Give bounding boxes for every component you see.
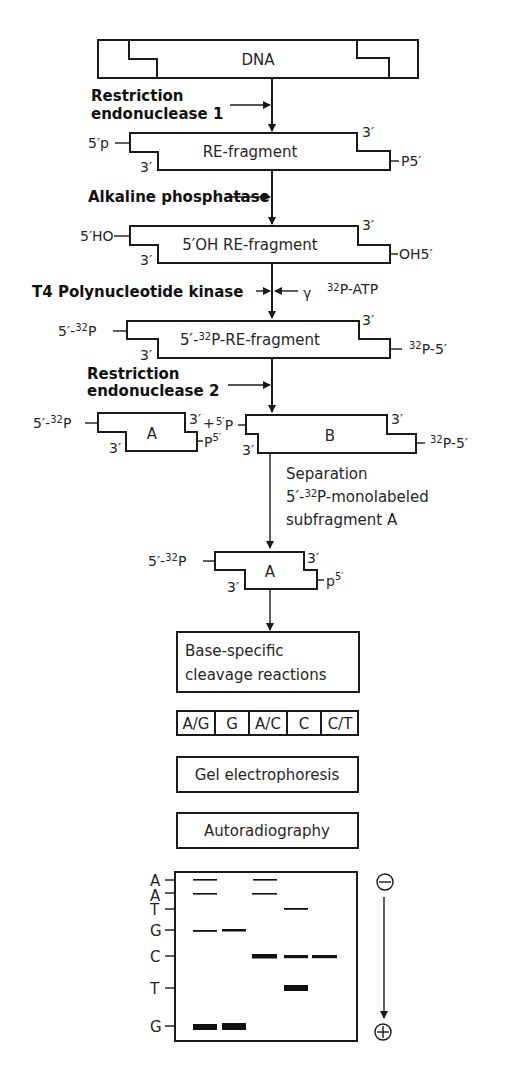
subfragment-a-right-3prime: 3′ xyxy=(189,411,201,427)
band xyxy=(193,879,217,881)
gel-electrophoresis-label: Gel electrophoresis xyxy=(195,766,340,784)
isolated-a-right-end: p5′ xyxy=(326,571,344,589)
subfragment-a: A 5′-32P 3′ 3′ + P5′ xyxy=(33,411,222,456)
lane-label-ac: A/C xyxy=(255,715,281,733)
step-restriction-2-line2: endonuclease 2 xyxy=(87,382,219,400)
re-fragment-label: RE-fragment xyxy=(203,143,298,161)
lane-label-g: G xyxy=(226,715,238,733)
seq-label: G xyxy=(150,922,162,940)
re-fragment-left-3prime: 3′ xyxy=(140,159,152,175)
step-alkaline-phosphatase: Alkaline phosphatase xyxy=(88,188,270,206)
dna-label: DNA xyxy=(241,51,275,69)
band xyxy=(252,954,277,959)
isolated-a-left-end: 5′-32P xyxy=(148,552,186,569)
step-restriction-2-line1: Restriction xyxy=(87,365,180,383)
band xyxy=(253,879,277,881)
sequencing-gel: A A T G C T G xyxy=(149,872,357,1041)
subfragment-a-left-end: 5′-32P xyxy=(33,414,71,431)
oh-fragment-right-3prime: 3′ xyxy=(362,217,374,233)
labeled-fragment-label: 5′-32P-RE-fragment xyxy=(180,331,320,349)
reaction-lanes: A/G G A/C C C/T xyxy=(177,711,358,735)
lane-label-ag: A/G xyxy=(183,715,210,733)
subfragment-b-left-end: 5′P xyxy=(216,416,233,433)
dna-box: DNA xyxy=(98,40,418,78)
re-fragment-right-end: P5′ xyxy=(401,153,422,169)
subfragment-b: B 5′P 3′ 3′ 32P-5′ xyxy=(216,411,468,458)
subfragment-b-label: B xyxy=(325,427,335,445)
maxam-gilbert-sequencing-diagram: DNA Restriction endonuclease 1 RE-fragme… xyxy=(0,0,507,1068)
band xyxy=(284,985,308,991)
band xyxy=(193,930,217,932)
autoradiography-label: Autoradiography xyxy=(204,822,330,840)
separation-line2: 5′-32P-monolabeled xyxy=(286,488,429,506)
labeled-fragment-right-end: 32P-5′ xyxy=(409,340,447,357)
band xyxy=(222,929,246,932)
band xyxy=(193,1024,217,1030)
gel-electrophoresis-box: Gel electrophoresis xyxy=(177,757,358,792)
oh-fragment-left-3prime: 3′ xyxy=(140,252,152,268)
oh-fragment-left-end: 5′HO xyxy=(80,228,114,244)
subfragment-a-right-end: P5′ xyxy=(204,432,222,450)
isolated-a-left-3prime: 3′ xyxy=(227,579,239,595)
reagent-gamma: γ xyxy=(303,285,311,301)
seq-label: T xyxy=(149,980,160,998)
separation-line3: subfragment A xyxy=(286,511,398,529)
labeled-fragment-left-end: 5′-32P xyxy=(58,322,96,339)
electrophoresis-direction xyxy=(375,874,393,1040)
isolated-a-right-3prime: 3′ xyxy=(307,550,319,566)
subfragment-a-label: A xyxy=(147,425,158,443)
subfragment-a-left-3prime: 3′ xyxy=(109,440,121,456)
cleavage-line2: cleavage reactions xyxy=(185,666,327,684)
re-fragment-right-3prime: 3′ xyxy=(362,124,374,140)
plus-sign: + xyxy=(203,415,215,431)
seq-label: C xyxy=(150,948,160,966)
band xyxy=(312,955,337,958)
isolated-subfragment-a: A 5′-32P 3′ 3′ p5′ xyxy=(148,550,344,595)
oh-re-fragment: 5′OH RE-fragment 5′HO 3′ 3′ OH5′ xyxy=(80,217,433,268)
seq-label: T xyxy=(149,901,160,919)
oh-fragment-right-end: OH5′ xyxy=(399,246,433,262)
oh-fragment-label: 5′OH RE-fragment xyxy=(182,236,318,254)
step-restriction-1-line2: endonuclease 1 xyxy=(91,105,223,123)
cleavage-reactions-box: Base-specific cleavage reactions xyxy=(177,632,359,692)
isolated-a-label: A xyxy=(265,563,276,581)
lane-label-ct: C/T xyxy=(328,715,354,733)
labeled-fragment-left-3prime: 3′ xyxy=(140,347,152,363)
subfragment-b-right-end: 32P-5′ xyxy=(430,434,468,451)
seq-label: G xyxy=(150,1018,162,1036)
subfragment-b-right-3prime: 3′ xyxy=(391,411,403,427)
reagent-atp: 32P-ATP xyxy=(327,281,378,297)
labeled-re-fragment: 5′-32P-RE-fragment 5′-32P 3′ 3′ 32P-5′ xyxy=(58,312,447,363)
cleavage-line1: Base-specific xyxy=(185,642,284,660)
labeled-fragment-right-3prime: 3′ xyxy=(362,312,374,328)
autoradiography-box: Autoradiography xyxy=(177,813,358,848)
band xyxy=(252,893,277,895)
step-t4-kinase: T4 Polynucleotide kinase xyxy=(32,283,243,301)
band xyxy=(222,1023,246,1030)
re-fragment-left-end: 5′p xyxy=(88,135,109,151)
subfragment-b-left-3prime: 3′ xyxy=(242,442,254,458)
band xyxy=(284,908,308,910)
lane-label-c: C xyxy=(299,715,309,733)
separation-line1: Separation xyxy=(286,465,368,483)
sequence-ladder: A A T G C T G xyxy=(149,872,175,1036)
step-restriction-1-line1: Restriction xyxy=(91,87,184,105)
band xyxy=(193,893,217,895)
band xyxy=(284,955,308,958)
re-fragment: RE-fragment 5′p 3′ 3′ P5′ xyxy=(88,124,422,175)
